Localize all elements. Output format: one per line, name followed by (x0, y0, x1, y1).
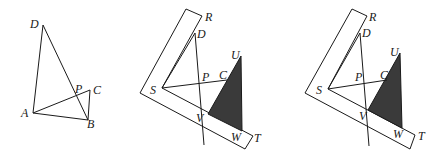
label-W: W (393, 127, 404, 141)
diagram-canvas: D A B C P R D U S P C V W T R D U S (0, 0, 440, 160)
segment-AB (33, 113, 88, 120)
label-P: P (201, 70, 210, 84)
diagram-svg: D A B C P R D U S P C V W T R D U S (0, 0, 440, 160)
line-DV (195, 33, 204, 145)
label-U: U (390, 45, 400, 59)
figure-1: D A B C P (20, 17, 102, 131)
label-C: C (380, 68, 389, 82)
label-A: A (20, 106, 29, 120)
label-D: D (29, 17, 39, 31)
label-D: D (361, 26, 371, 40)
label-S: S (316, 83, 322, 97)
segment-SC (162, 80, 227, 88)
label-R: R (368, 10, 377, 24)
label-R: R (204, 10, 213, 24)
segment-CB (88, 90, 90, 120)
label-T: T (254, 131, 262, 145)
label-T: T (418, 129, 426, 143)
label-B: B (87, 117, 95, 131)
line-DV (360, 33, 369, 146)
label-D: D (196, 27, 206, 41)
label-W: W (231, 130, 242, 144)
label-S: S (150, 83, 156, 97)
segment-DA (33, 25, 43, 113)
figure-3: R D U S P C V W T (305, 9, 426, 149)
label-P: P (354, 70, 363, 84)
label-P: P (74, 82, 83, 96)
label-C: C (93, 83, 102, 97)
figure-2: R D U S P C V W T (140, 9, 262, 149)
label-C: C (219, 68, 228, 82)
label-U: U (231, 48, 241, 62)
